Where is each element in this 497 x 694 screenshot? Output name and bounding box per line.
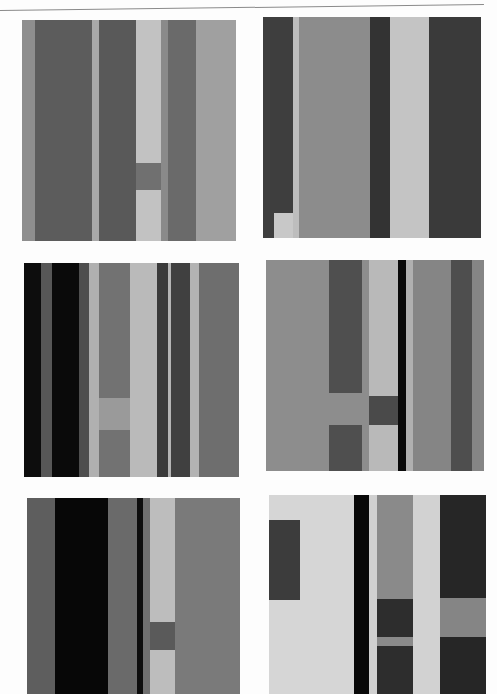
stripe-block (263, 17, 293, 238)
stripe-panel-1 (22, 20, 236, 241)
stripe-block (190, 263, 199, 477)
stripe-block (472, 260, 484, 471)
stripe-block (196, 20, 236, 241)
stripe-block (398, 260, 406, 471)
stripe-block (406, 260, 413, 471)
stripe-block (369, 396, 398, 425)
stripe-block (274, 213, 293, 238)
stripe-block (99, 398, 130, 430)
stripe-block (413, 495, 440, 694)
stripe-block (41, 263, 52, 477)
stripe-block (369, 260, 398, 471)
stripe-block (370, 17, 390, 238)
stripe-block (52, 263, 79, 477)
stripe-block (299, 17, 370, 238)
stripe-block (92, 20, 99, 241)
stripe-block (329, 425, 362, 471)
stripe-block (79, 263, 89, 477)
stripe-panel-6 (269, 495, 486, 694)
stripe-block (108, 498, 137, 694)
stripe-block (440, 495, 486, 694)
stripe-block (390, 17, 429, 238)
stripe-block (440, 598, 486, 637)
stripe-block (171, 263, 190, 477)
stripe-block (136, 163, 161, 190)
stripe-block (89, 263, 99, 477)
stripe-block (161, 20, 168, 241)
stripe-block (269, 520, 300, 600)
stripe-block (150, 622, 175, 650)
stripe-block (377, 646, 413, 694)
stripe-panel-2 (263, 17, 481, 238)
stripe-block (157, 263, 168, 477)
stripe-block (150, 498, 175, 694)
top-divider-rule (0, 4, 484, 11)
stripe-block (35, 20, 92, 241)
stripe-block (362, 260, 369, 471)
stripe-block (377, 599, 413, 637)
stripe-block (451, 260, 472, 471)
stripe-block (99, 263, 130, 477)
stripe-block (354, 495, 369, 694)
stripe-block (136, 20, 161, 241)
stripe-block (175, 498, 240, 694)
stripe-block (329, 260, 362, 393)
stripe-block (199, 263, 239, 477)
stripe-block (369, 495, 377, 694)
stripe-block (55, 498, 108, 694)
stripe-block (24, 263, 41, 477)
stripe-panel-3 (24, 263, 239, 477)
stripe-block (130, 263, 157, 477)
stripe-block (27, 498, 55, 694)
stripe-block (168, 20, 196, 241)
stripe-block (22, 20, 35, 241)
stripe-panel-5 (27, 498, 240, 694)
stripe-block (143, 498, 150, 694)
stripe-panel-4 (266, 260, 484, 471)
stripe-block (99, 20, 136, 241)
stripe-block (413, 260, 451, 471)
stripe-block (429, 17, 481, 238)
